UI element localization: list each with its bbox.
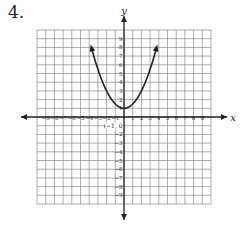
x-tick-label: −7 (59, 115, 68, 121)
curve-arrow-icon (153, 45, 158, 52)
y-tick-label: −8 (114, 184, 123, 190)
x-tick-label: −6 (68, 115, 77, 121)
x-tick-label: −2 (103, 115, 111, 121)
x-tick-label: −9 (42, 115, 51, 121)
y-tick-label: −4 (114, 149, 123, 155)
x-axis-right-arrow-icon (221, 114, 227, 120)
point-annotation: (−1, 0) (104, 122, 125, 129)
x-tick-label: −8 (50, 115, 59, 121)
y-axis-label: y (120, 5, 127, 16)
y-tick-label: −3 (114, 140, 123, 146)
y-tick-label: 5 (119, 71, 123, 77)
x-tick-label: 4 (157, 115, 161, 121)
x-tick-label: 7 (183, 115, 187, 121)
y-tick-label: −5 (114, 158, 123, 164)
y-tick-label: 4 (119, 79, 123, 85)
y-tick-label: 9 (119, 36, 123, 42)
x-tick-label: −4 (85, 115, 94, 121)
x-tick-label: 8 (192, 115, 196, 121)
y-axis-down-arrow-icon (121, 214, 127, 220)
x-axis-left-arrow-icon (21, 114, 27, 120)
x-tick-label: 9 (201, 115, 205, 121)
x-tick-label: −1 (111, 115, 119, 121)
y-tick-label: −2 (114, 131, 122, 137)
y-tick-label: −6 (114, 166, 123, 172)
x-tick-label: −3 (94, 115, 103, 121)
y-tick-label: 2 (119, 97, 123, 103)
y-tick-label: −7 (114, 175, 123, 181)
curve-arrow-icon (90, 45, 95, 52)
x-tick-label: 3 (148, 115, 152, 121)
y-tick-label: 8 (119, 44, 123, 50)
x-tick-label: 5 (166, 115, 170, 121)
x-axis-label: x (230, 112, 236, 123)
y-tick-label: −9 (114, 192, 123, 198)
x-tick-label: 6 (174, 115, 178, 121)
y-axis-up-arrow-icon (121, 16, 127, 22)
coordinate-plane: xy−9−8−7−6−5−4−3−2−1123456789−9−8−7−6−5−… (0, 0, 246, 227)
x-tick-label: 1 (131, 115, 135, 121)
y-tick-label: 6 (119, 62, 123, 68)
y-tick-label: 7 (119, 53, 123, 59)
y-tick-label: 3 (119, 88, 123, 94)
x-tick-label: −5 (76, 115, 85, 121)
x-tick-label: 2 (140, 115, 144, 121)
